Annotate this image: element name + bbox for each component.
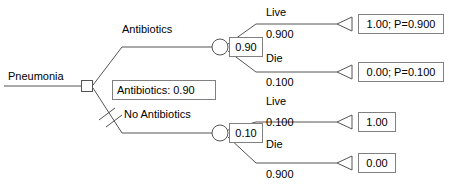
outcome-probability-antibiotics-die: 0.100 xyxy=(266,76,294,88)
chance-node-no-antibiotics[interactable] xyxy=(212,125,228,141)
payoff-box-no-antibiotics-die: 0.00 xyxy=(358,153,396,173)
terminal-node-antibiotics-die[interactable] xyxy=(337,65,352,79)
branch-label-antibiotics: Antibiotics xyxy=(122,23,172,35)
payoff-box-antibiotics-live: 1.00; P=0.900 xyxy=(358,14,444,34)
outcome-label-no-antibiotics-live: Live xyxy=(266,95,286,107)
terminal-node-no-antibiotics-live[interactable] xyxy=(337,115,352,129)
outcome-label-antibiotics-live: Live xyxy=(266,6,286,18)
terminal-node-antibiotics-live[interactable] xyxy=(337,17,352,31)
terminal-node-no-antibiotics-die[interactable] xyxy=(337,156,352,170)
decision-tree-diagram: Pneumonia Antibiotics: 0.90 Antibiotics … xyxy=(0,0,449,188)
outcome-probability-antibiotics-live: 0.900 xyxy=(266,28,294,40)
outcome-label-no-antibiotics-die: Die xyxy=(266,138,283,150)
outcome-probability-no-antibiotics-die: 0.900 xyxy=(266,168,294,180)
outcome-probability-no-antibiotics-live: 0.100 xyxy=(266,116,294,128)
prune-slash-2-icon xyxy=(106,115,122,127)
expected-value-antibiotics: 0.90 xyxy=(229,37,263,57)
payoff-box-antibiotics-die: 0.00; P=0.100 xyxy=(358,62,444,82)
expected-value-no-antibiotics: 0.10 xyxy=(229,123,263,143)
decision-node-square[interactable] xyxy=(82,81,93,92)
payoff-box-no-antibiotics-live: 1.00 xyxy=(358,112,396,132)
branch-label-no-antibiotics: No Antibiotics xyxy=(124,108,191,120)
policy-value-box: Antibiotics: 0.90 xyxy=(112,80,216,100)
outcome-label-antibiotics-die: Die xyxy=(266,52,283,64)
root-label: Pneumonia xyxy=(8,70,64,82)
chance-node-antibiotics[interactable] xyxy=(212,39,228,55)
